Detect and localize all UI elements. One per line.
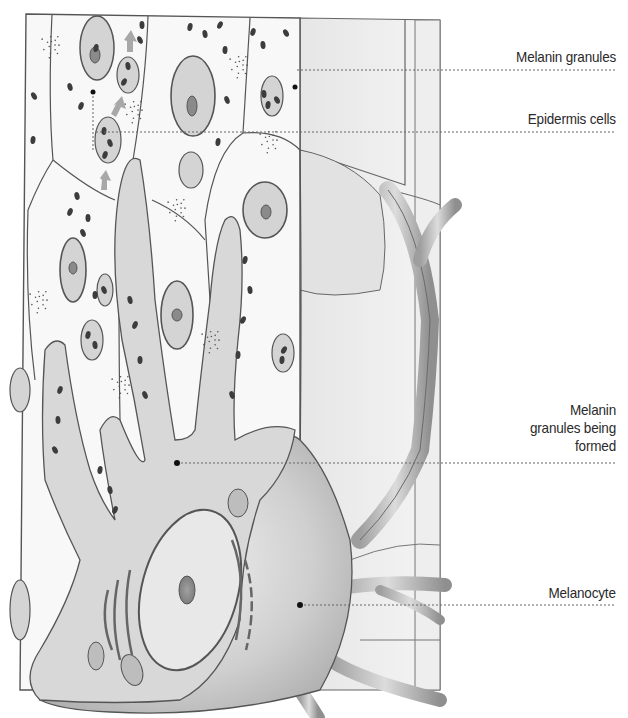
forming-granule-speck <box>238 56 240 58</box>
melanocyte-illustration <box>0 0 628 718</box>
forming-granule-speck <box>169 212 171 214</box>
forming-granule-speck <box>272 139 274 141</box>
forming-granule-speck <box>113 389 115 391</box>
forming-granule-speck <box>266 141 268 143</box>
forming-granule-speck <box>42 295 44 297</box>
forming-granule-speck <box>127 393 129 395</box>
forming-granule-speck <box>57 53 59 55</box>
forming-granule-speck <box>245 73 247 75</box>
forming-granule-speck <box>242 64 244 66</box>
forming-granule-speck <box>245 56 247 58</box>
forming-granule-speck <box>57 36 59 38</box>
forming-granule-speck <box>210 331 212 333</box>
forming-granule-speck <box>268 147 270 149</box>
forming-granule-speck <box>183 199 185 201</box>
forming-granule-speck <box>128 384 130 386</box>
forming-granule-speck <box>124 380 126 382</box>
forming-granule-speck <box>43 49 45 51</box>
forming-granule-speck <box>261 144 263 146</box>
forming-granule-speck <box>201 333 203 335</box>
forming-granule-speck <box>120 376 122 378</box>
forming-granule-speck <box>259 133 261 135</box>
forming-granule-speck <box>275 148 277 150</box>
forming-granule-speck <box>272 144 274 146</box>
forming-granule-speck <box>134 106 136 108</box>
forming-granule-speck <box>167 201 169 203</box>
forming-granule-speck <box>119 397 121 399</box>
forming-granule-speck <box>217 331 219 333</box>
forming-granule-speck <box>211 336 213 338</box>
forming-granule-speck <box>242 60 244 62</box>
label-epidermis-cells: Epidermis cells <box>528 110 616 128</box>
forming-granule-speck <box>184 207 186 209</box>
forming-granule-speck <box>58 44 60 46</box>
forming-granule-speck <box>51 41 53 43</box>
forming-granule-speck <box>183 216 185 218</box>
forming-granule-speck <box>127 376 129 378</box>
forming-granule-speck <box>35 296 37 298</box>
forming-granule-speck <box>218 339 220 341</box>
label-melanocyte: Melanocyte <box>549 584 616 602</box>
forming-granule-speck <box>210 347 212 349</box>
forming-granule-speck <box>177 204 179 206</box>
forming-granule-speck <box>38 307 40 309</box>
forming-granule-speck <box>137 109 139 111</box>
forming-granule-speck <box>137 105 139 107</box>
forming-granule-speck <box>130 106 132 108</box>
label-melanin-granules: Melanin granules <box>516 48 616 66</box>
forming-granule-speck <box>214 339 216 341</box>
forming-granule-speck <box>207 336 209 338</box>
forming-granule-speck <box>176 215 178 217</box>
forming-granule-speck <box>173 204 175 206</box>
forming-granule-speck <box>120 392 122 394</box>
forming-granule-speck <box>140 101 142 103</box>
forming-granule-speck <box>118 386 120 388</box>
forming-granule-speck <box>133 117 135 119</box>
forming-granule-speck <box>46 299 48 301</box>
forming-granule-speck <box>246 64 248 66</box>
label-line: granules being <box>490 419 616 437</box>
forming-granule-speck <box>37 312 39 314</box>
forming-granule-speck <box>267 152 269 154</box>
forming-granule-speck <box>50 52 52 54</box>
forming-granule-speck <box>272 135 274 137</box>
forming-granule-speck <box>176 199 178 201</box>
forming-granule-speck <box>49 57 51 59</box>
forming-granule-speck <box>235 61 237 63</box>
label-melanin-granules-being-formed: Melanin granules being formed <box>490 401 616 455</box>
forming-granule-speck <box>132 122 134 124</box>
forming-granule-speck <box>231 69 233 71</box>
forming-granule-speck <box>269 136 271 138</box>
forming-granule-speck <box>50 36 52 38</box>
forming-granule-speck <box>47 41 49 43</box>
forming-granule-speck <box>209 352 211 354</box>
forming-granule-speck <box>276 139 278 141</box>
forming-granule-speck <box>238 72 240 74</box>
forming-granule-speck <box>131 111 133 113</box>
forming-granule-speck <box>174 209 176 211</box>
forming-granule-speck <box>180 207 182 209</box>
forming-granule-speck <box>208 341 210 343</box>
forming-granule-speck <box>124 384 126 386</box>
forming-granule-speck <box>41 38 43 40</box>
forming-granule-speck <box>214 344 216 346</box>
granule <box>138 356 143 364</box>
forming-granule-speck <box>242 69 244 71</box>
forming-granule-speck <box>36 301 38 303</box>
forming-granule-speck <box>137 114 139 116</box>
forming-granule-speck <box>124 389 126 391</box>
forming-granule-speck <box>180 203 182 205</box>
forming-granule-speck <box>140 118 142 120</box>
forming-granule-speck <box>180 212 182 214</box>
forming-granule-speck <box>39 296 41 298</box>
forming-granule-speck <box>133 101 135 103</box>
forming-granule-speck <box>117 381 119 383</box>
forming-granule-speck <box>239 61 241 63</box>
forming-granule-speck <box>236 66 238 68</box>
forming-granule-speck <box>265 136 267 138</box>
label-line: formed <box>490 437 616 455</box>
forming-granule-speck <box>42 304 44 306</box>
forming-granule-speck <box>121 381 123 383</box>
forming-granule-speck <box>45 291 47 293</box>
forming-granule-speck <box>111 378 113 380</box>
